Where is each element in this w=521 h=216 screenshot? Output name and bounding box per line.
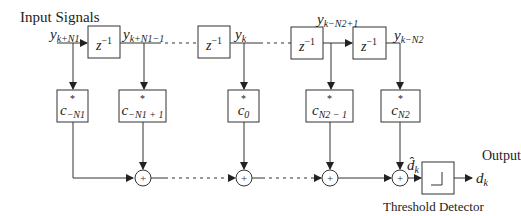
signal-d-hat-k: d̂k bbox=[407, 158, 419, 175]
coef-minus-n1-plus-1-label: *c−N1 + 1 bbox=[119, 102, 166, 120]
summer-4-plus: + bbox=[397, 172, 403, 184]
threshold-detector-box bbox=[422, 162, 454, 194]
signal-y-k-minus-n2: yk−N2 bbox=[394, 28, 424, 45]
delay-1-label: z−1 bbox=[96, 36, 112, 53]
signal-d-k-output: dk bbox=[476, 171, 488, 188]
delay-4-label: z−1 bbox=[361, 37, 377, 54]
coef-minus-n1-label: *c−N1 bbox=[57, 102, 88, 120]
summer-1-plus: + bbox=[140, 172, 146, 184]
signal-y-k-plus-n1: yk+N1 bbox=[50, 27, 80, 44]
signal-y-k: yk bbox=[235, 27, 246, 44]
input-signals-label: Input Signals bbox=[20, 10, 100, 25]
delay-2-label: z−1 bbox=[206, 36, 222, 53]
summer-2-plus: + bbox=[241, 172, 247, 184]
coef-n2-label: *cN2 bbox=[381, 102, 420, 120]
summer-3-plus: + bbox=[327, 172, 333, 184]
delay-3-label: z−1 bbox=[299, 37, 315, 54]
signal-y-k-plus-n1-minus-1: yk+N1−1 bbox=[123, 27, 164, 44]
coef-n2-minus-1-label: *cN2 − 1 bbox=[306, 102, 353, 120]
output-label: Output bbox=[482, 149, 521, 163]
threshold-step-icon bbox=[431, 172, 442, 185]
coef-0-label: *c0 bbox=[228, 102, 259, 120]
threshold-detector-label: Threshold Detector bbox=[383, 200, 484, 213]
signal-y-k-minus-n2-plus-1: yk−N2+1 bbox=[317, 12, 358, 29]
